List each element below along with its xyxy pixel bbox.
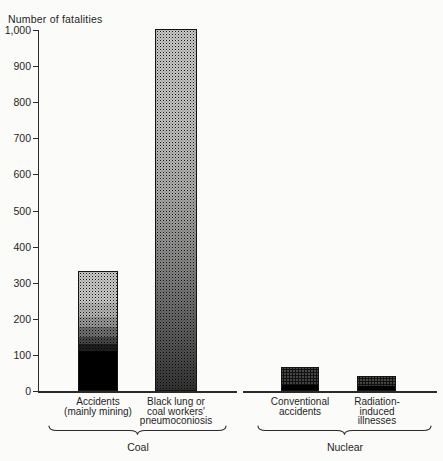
- y-tick-label-900: 900: [0, 60, 31, 72]
- y-tick-label-500: 500: [0, 205, 31, 217]
- y-axis-line: [38, 30, 39, 391]
- bar-black-lung: [155, 29, 197, 391]
- bar-label-radiation: Radiation-induced illnesses: [344, 397, 410, 426]
- y-tick-label-1000: 1,000: [0, 24, 31, 36]
- group-label-nuclear: Nuclear: [327, 441, 363, 453]
- y-tick-label-800: 800: [0, 96, 31, 108]
- bar-accidents: [78, 271, 118, 391]
- y-tick-label-100: 100: [0, 349, 31, 361]
- nuclear-group-brace: [257, 425, 432, 436]
- y-tick-label-200: 200: [0, 313, 31, 325]
- bar-label-accidents: Accidents (mainly mining): [64, 397, 132, 416]
- x-axis-baseline-coal: [38, 391, 237, 393]
- group-label-coal: Coal: [127, 441, 149, 453]
- y-tick-label-0: 0: [0, 385, 31, 397]
- fatalities-bar-chart: Number of fatalities 0100200300400500600…: [0, 0, 443, 461]
- x-axis-baseline-nuclear: [243, 391, 437, 393]
- bar-radiation: [357, 376, 396, 391]
- coal-group-brace: [48, 425, 227, 436]
- y-tick-label-400: 400: [0, 241, 31, 253]
- bar-label-black-lung: Black lung or coal workers' pneumoconios…: [140, 397, 212, 426]
- y-tick-label-300: 300: [0, 277, 31, 289]
- bar-label-conventional: Conventional accidents: [271, 397, 329, 416]
- bar-conventional: [281, 367, 319, 391]
- y-tick-label-700: 700: [0, 132, 31, 144]
- y-tick-label-600: 600: [0, 168, 31, 180]
